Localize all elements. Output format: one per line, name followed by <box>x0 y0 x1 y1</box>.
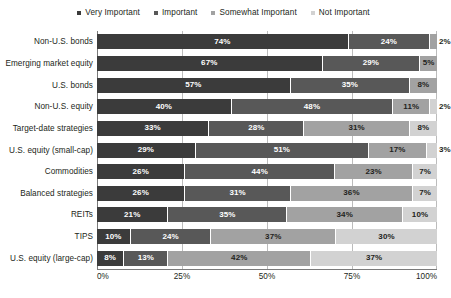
legend-label: Very Important <box>85 9 140 17</box>
bar-segment-value: 23% <box>365 168 381 176</box>
bar-segment-value: 44% <box>252 168 268 176</box>
bar-segment-value: 31% <box>348 124 364 132</box>
bar-segment[interactable]: 31% <box>185 186 290 201</box>
bar-segment[interactable]: 29% <box>323 56 421 71</box>
bar-segment[interactable]: 24% <box>349 34 431 49</box>
bar-segment[interactable]: 26% <box>97 164 185 179</box>
x-axis-tick-label: 25% <box>174 273 190 281</box>
bar-segment[interactable]: 44% <box>185 164 335 179</box>
y-axis-label: REITs <box>0 211 93 219</box>
legend-label: Not Important <box>319 9 370 17</box>
bar-segment[interactable]: 2% <box>430 34 437 49</box>
x-axis-tick-labels: 0%25%50%75%100% <box>97 273 437 285</box>
x-axis-tick-label: 75% <box>344 273 360 281</box>
bar-segment[interactable]: 13% <box>124 251 168 266</box>
legend-swatch-icon <box>77 11 81 15</box>
bar-segment[interactable]: 51% <box>196 143 369 158</box>
bar-segment[interactable]: 8% <box>97 251 124 266</box>
bar-row: 21%35%34%10% <box>97 207 437 222</box>
y-axis-label: Non-U.S. bonds <box>0 38 93 46</box>
bar-row: 26%44%23%7% <box>97 164 437 179</box>
bar-segment-value: 51% <box>274 146 290 154</box>
bar-segment[interactable]: 74% <box>97 34 349 49</box>
bar-row: 33%28%31%8% <box>97 121 437 136</box>
bar-segment-value: 29% <box>138 146 154 154</box>
bar-row: 29%51%17%3% <box>97 143 437 158</box>
bar-segment[interactable]: 31% <box>304 121 409 136</box>
bar-segment[interactable]: 8% <box>410 121 437 136</box>
bar-segment-value: 10% <box>412 211 428 219</box>
y-axis-label: Balanced strategies <box>0 190 93 198</box>
bar-segment[interactable]: 57% <box>97 78 291 93</box>
bar-segment[interactable]: 36% <box>291 186 413 201</box>
y-axis-label: TIPS <box>0 233 93 241</box>
bar-segment-value: 34% <box>337 211 353 219</box>
bar-segment-value: 28% <box>248 124 264 132</box>
bar-segment[interactable]: 2% <box>430 99 437 114</box>
bar-segment-value: 35% <box>342 81 358 89</box>
bar-segment-value: 40% <box>156 103 172 111</box>
bar-segment[interactable]: 11% <box>393 99 430 114</box>
legend-item[interactable]: Important <box>154 9 198 17</box>
bar-segment[interactable]: 3% <box>427 143 437 158</box>
bar-segment[interactable]: 26% <box>97 186 185 201</box>
bar-segment[interactable]: 10% <box>97 229 131 244</box>
bar-segment-value: 11% <box>403 103 419 111</box>
bar-segment-value: 24% <box>162 233 178 241</box>
bar-segment-value: 2% <box>439 38 451 46</box>
bar-segment[interactable]: 42% <box>168 251 311 266</box>
y-axis-label: U.S. equity (large-cap) <box>0 255 93 263</box>
bar-segment-value: 74% <box>214 38 230 46</box>
bar-segment[interactable]: 7% <box>413 164 437 179</box>
bar-segment[interactable]: 35% <box>291 78 410 93</box>
bar-segment[interactable]: 30% <box>336 229 437 244</box>
bar-segment[interactable]: 40% <box>97 99 232 114</box>
y-axis-label: Non-U.S. equity <box>0 103 93 111</box>
bar-segment[interactable]: 48% <box>232 99 394 114</box>
x-axis-tick-label: 50% <box>259 273 275 281</box>
bar-segment-value: 2% <box>439 103 451 111</box>
bar-segment[interactable]: 37% <box>311 251 437 266</box>
legend-item[interactable]: Not Important <box>311 9 370 17</box>
y-axis-label: Emerging market equity <box>0 60 93 68</box>
bar-segment-value: 21% <box>124 211 140 219</box>
bar-segment[interactable]: 33% <box>97 121 209 136</box>
legend-swatch-icon <box>311 11 315 15</box>
bar-segment-value: 5% <box>423 59 435 67</box>
bar-segment[interactable]: 7% <box>413 186 437 201</box>
bar-segment-value: 42% <box>231 254 247 262</box>
legend-swatch-icon <box>154 11 158 15</box>
x-axis-line <box>97 269 437 270</box>
x-axis-tick-label: 0% <box>97 273 109 281</box>
bar-segment-value: 26% <box>133 189 149 197</box>
bar-segment[interactable]: 37% <box>211 229 336 244</box>
bar-segment[interactable]: 34% <box>287 207 403 222</box>
bar-segment-value: 31% <box>229 189 245 197</box>
bar-segment[interactable]: 23% <box>335 164 413 179</box>
legend-item[interactable]: Very Important <box>77 9 140 17</box>
bar-segment[interactable]: 35% <box>168 207 287 222</box>
legend-item[interactable]: Somewhat Important <box>211 9 296 17</box>
bar-segment-value: 8% <box>104 254 116 262</box>
legend-swatch-icon <box>211 11 215 15</box>
bar-segment-value: 67% <box>201 59 217 67</box>
bar-segment[interactable]: 21% <box>97 207 168 222</box>
y-axis-label: Commodities <box>0 168 93 176</box>
bar-segment[interactable]: 24% <box>131 229 212 244</box>
bar-segment-value: 26% <box>133 168 149 176</box>
bar-segment-value: 24% <box>381 38 397 46</box>
plot-area: 74%24%2%67%29%5%57%35%8%40%48%11%2%33%28… <box>97 31 437 269</box>
bar-segment[interactable]: 29% <box>97 143 196 158</box>
bar-segment[interactable]: 10% <box>403 207 437 222</box>
bar-segment[interactable]: 5% <box>420 56 437 71</box>
bar-segment-value: 29% <box>363 59 379 67</box>
bar-segment-value: 10% <box>105 233 121 241</box>
bar-segment-value: 33% <box>144 124 160 132</box>
bar-segment[interactable]: 67% <box>97 56 323 71</box>
bar-segment[interactable]: 8% <box>410 78 437 93</box>
bar-segment[interactable]: 17% <box>369 143 427 158</box>
bar-segment[interactable]: 28% <box>209 121 304 136</box>
bar-segment-value: 37% <box>366 254 382 262</box>
bar-segment-value: 57% <box>185 81 201 89</box>
